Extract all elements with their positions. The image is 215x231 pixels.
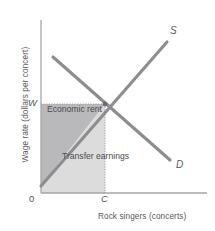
economics-figure: Wage rate (dollars per concert) Rock sin… <box>0 0 215 231</box>
transfer-earnings-label: Transfer earnings <box>62 152 116 162</box>
x-axis-title: Rock singers (concerts) <box>98 212 186 221</box>
equilibrium-point <box>103 102 108 107</box>
supply-curve-label: S <box>170 25 177 36</box>
economic-rent-label: Economic rent <box>47 105 103 115</box>
demand-curve-label: D <box>176 159 183 170</box>
x-tick-label-c: C <box>101 194 108 205</box>
y-tick-label-w: W <box>28 98 37 109</box>
origin-label: 0 <box>29 194 34 205</box>
